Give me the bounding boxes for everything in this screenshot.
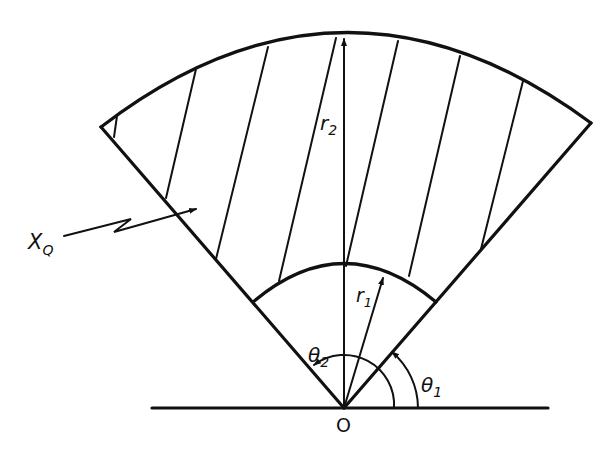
r2-label: r2 [320,111,337,138]
hatch-line [409,56,460,276]
hatch-line [216,47,268,259]
r1-label: r1 [356,284,372,310]
outer-arc [101,32,591,127]
sector-right-edge [344,123,591,408]
sector-diagram: r2 r1 θ2 θ1 O XQ [0,0,611,457]
origin-label: O [336,414,351,436]
theta1-label: θ1 [421,373,442,400]
hatch-line [166,69,196,198]
xray-label: XQ [27,230,53,258]
theta1-arc [392,352,418,408]
hatch-line [346,41,398,266]
hatch-line [279,38,336,281]
hatch-line [114,116,117,137]
theta2-label: θ2 [308,343,329,370]
hatch-lines [114,38,523,281]
